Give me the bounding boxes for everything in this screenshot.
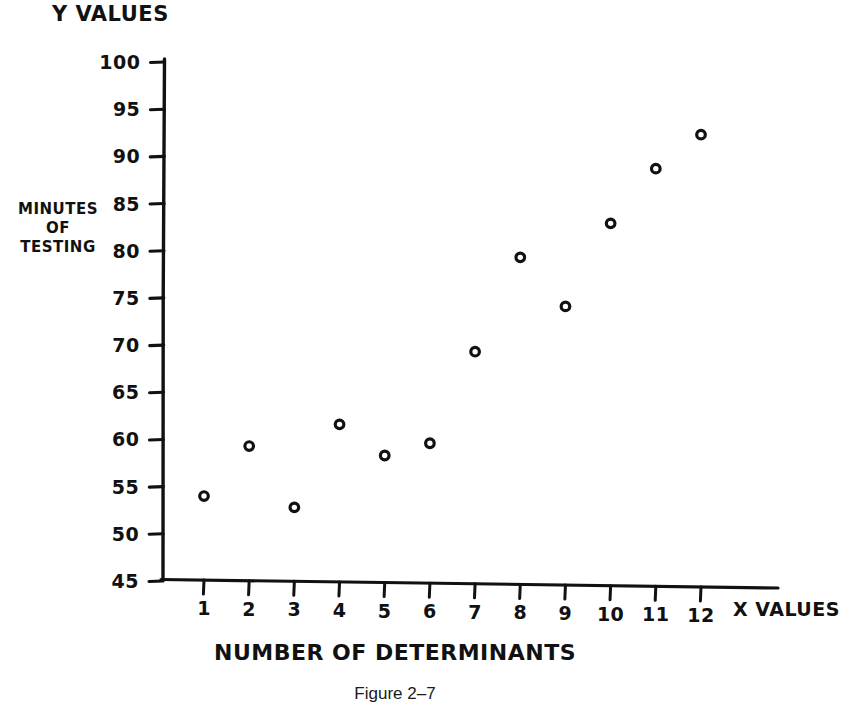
y-tick-label: 95 <box>80 98 140 120</box>
x-axis-title: NUMBER OF DETERMINANTS <box>0 640 790 665</box>
x-tick-mark <box>610 586 611 600</box>
y-tick-mark <box>150 109 164 110</box>
y-tick-mark <box>150 251 164 252</box>
y-tick-label: 55 <box>79 476 139 498</box>
figure-caption: Figure 2–7 <box>0 684 790 704</box>
x-tick-mark <box>249 581 250 595</box>
x-tick-label: 2 <box>229 598 269 620</box>
y-tick-mark <box>150 204 164 205</box>
y-tick-mark <box>150 345 164 346</box>
y-tick-label: 65 <box>80 381 140 403</box>
x-tick-label: 1 <box>184 597 224 619</box>
x-tick-mark <box>474 584 475 598</box>
x-tick-label: 11 <box>636 603 676 625</box>
data-point-marker <box>426 439 435 448</box>
y-tick-label: 60 <box>79 428 139 450</box>
x-tick-label: 7 <box>455 601 495 623</box>
data-point-marker <box>561 302 570 311</box>
y-tick-label: 50 <box>79 523 139 545</box>
figure-scatter-plot: Y VALUES MINUTES OF TESTING 455055606570… <box>0 0 866 717</box>
data-point-marker <box>697 130 706 139</box>
x-tick-mark <box>520 584 521 598</box>
x-tick-mark <box>429 583 430 597</box>
axis-lines <box>161 59 778 588</box>
x-axis-end-label: X VALUES <box>733 598 840 620</box>
data-point-marker <box>200 492 209 501</box>
data-point-group <box>200 130 706 511</box>
data-point-marker <box>335 420 344 429</box>
data-point-marker <box>245 442 254 451</box>
x-tick-mark <box>203 580 204 594</box>
y-tick-label: 90 <box>80 145 140 167</box>
x-tick-mark <box>384 583 385 597</box>
data-point-marker <box>516 253 525 262</box>
y-tick-mark <box>149 534 163 535</box>
x-tick-label: 8 <box>500 601 540 623</box>
x-tick-label: 12 <box>681 604 721 626</box>
data-point-marker <box>652 164 661 173</box>
x-tick-mark <box>700 587 701 601</box>
x-tick-label: 9 <box>545 602 585 624</box>
y-tick-label: 100 <box>80 51 140 73</box>
y-tick-label: 75 <box>80 287 140 309</box>
x-axis-line <box>161 580 778 589</box>
x-tick-label: 10 <box>591 603 631 625</box>
y-tick-mark <box>150 392 164 393</box>
y-tick-mark <box>149 439 163 440</box>
y-axis-line <box>163 59 165 580</box>
data-point-marker <box>606 219 615 228</box>
x-tick-label: 6 <box>410 600 450 622</box>
y-tick-label: 70 <box>80 334 140 356</box>
y-tick-mark <box>150 156 164 157</box>
x-tick-mark <box>565 585 566 599</box>
x-tick-mark <box>339 582 340 596</box>
data-point-marker <box>471 347 480 356</box>
y-tick-label: 45 <box>79 570 139 592</box>
y-tick-mark <box>150 298 164 299</box>
y-tick-mark <box>149 581 163 582</box>
x-tick-label: 5 <box>365 600 405 622</box>
y-tick-label: 85 <box>80 193 140 215</box>
data-point-marker <box>290 503 299 512</box>
x-tick-label: 3 <box>274 598 314 620</box>
y-tick-label: 80 <box>80 240 140 262</box>
data-point-marker <box>380 451 389 460</box>
x-tick-mark <box>294 581 295 595</box>
y-tick-mark <box>150 62 164 63</box>
x-tick-label: 4 <box>320 599 360 621</box>
x-tick-mark <box>655 586 656 600</box>
y-tick-mark <box>149 487 163 488</box>
